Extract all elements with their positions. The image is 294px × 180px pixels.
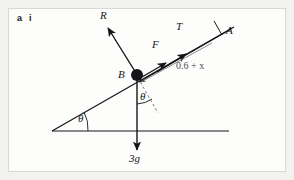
particle-b-dot: [131, 69, 143, 81]
label-distance: 0.6 + x: [176, 60, 204, 71]
label-incline-angle: θ: [78, 112, 83, 124]
label-tension: T: [176, 20, 182, 32]
label-vertical-angle: θ: [140, 90, 145, 102]
incline-parallel-line: [139, 29, 231, 82]
label-point-a: A: [226, 24, 233, 36]
label-point-b: B: [118, 68, 125, 80]
figure-page: a i: [0, 0, 294, 180]
label-weight: 3g: [129, 152, 140, 164]
anchor-tick-mark: [214, 21, 222, 35]
incline-angle-arc: [84, 112, 88, 131]
label-friction: F: [152, 38, 159, 50]
normal-reaction-arrow: [108, 28, 136, 73]
label-normal-reaction: R: [100, 9, 107, 21]
inclined-plane-diagram: [0, 0, 294, 180]
